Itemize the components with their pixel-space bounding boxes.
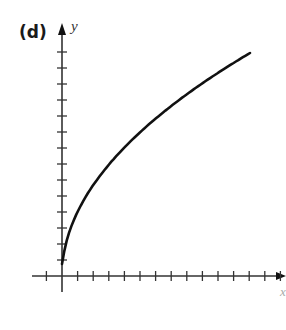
x-axis-label: x (280, 284, 286, 300)
panel-label: (d) (19, 22, 47, 42)
graph-plot (0, 0, 286, 330)
y-axis-label: y (71, 18, 78, 35)
axes (32, 23, 286, 292)
sqrt-curve (62, 53, 250, 264)
y-axis-arrow-icon (58, 23, 66, 35)
